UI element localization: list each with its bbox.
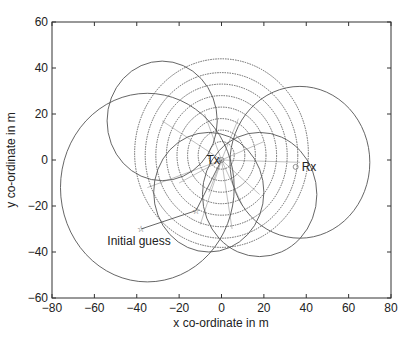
chart-canvas: ☆☆ −80−60−40−20020406080−60−40−200204060… [0,0,414,340]
initial-guess-label: Initial guess [107,234,170,248]
y-tick-label: 20 [35,107,49,121]
x-axis-label: x co-ordinate in m [173,316,268,330]
x-tick-label: 60 [342,301,356,315]
star-marker-icon: ☆ [137,224,145,234]
x-tick-label: 40 [300,301,314,315]
tx-label: Tx [207,153,220,167]
x-tick-label: −20 [169,301,190,315]
y-tick-label: −40 [28,245,49,259]
y-tick-label: 0 [41,153,48,167]
y-tick-label: 40 [35,61,49,75]
x-tick-label: −40 [127,301,148,315]
x-tick-label: 0 [218,301,225,315]
y-axis-label: y co-ordinate in m [4,112,18,207]
star-marker-icon: ☆ [192,206,200,216]
x-tick-label: 20 [257,301,271,315]
rx-label: Rx [302,160,317,174]
y-tick-label: −20 [28,199,49,213]
y-tick-label: −60 [28,291,49,305]
x-tick-label: 80 [384,301,398,315]
x-tick-label: −60 [84,301,105,315]
y-tick-label: 60 [35,15,49,29]
